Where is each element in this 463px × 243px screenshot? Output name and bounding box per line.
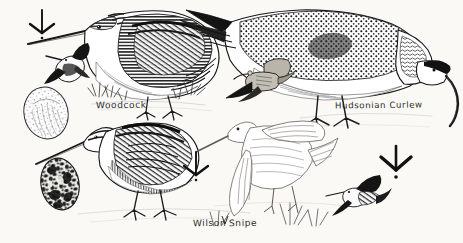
woodcock-flying — [44, 43, 90, 84]
track-lower-right — [381, 146, 411, 179]
hudsonian-curlew-standing — [180, 10, 458, 128]
caption-hudsonian-curlew: Hudsonian Curlew — [335, 100, 423, 111]
caption-snipe: Snipe — [229, 218, 257, 228]
plate-artwork — [0, 0, 463, 243]
track-upper-left — [30, 10, 54, 39]
bird-illustration-plate: Woodcock Hudsonian Curlew Wilson Snipe — [0, 0, 463, 243]
caption-wilson: Wilson — [193, 218, 226, 228]
grass-tuft-snipe — [210, 203, 328, 226]
caption-woodcock: Woodcock — [96, 100, 147, 111]
woodcock-egg — [19, 83, 73, 143]
wilson-snipe-egg — [37, 155, 83, 213]
wilson-snipe-displaying — [196, 121, 338, 216]
wilson-snipe-flying — [326, 175, 392, 216]
